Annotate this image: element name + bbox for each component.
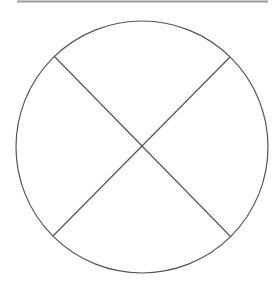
diagram-canvas bbox=[0, 0, 280, 282]
